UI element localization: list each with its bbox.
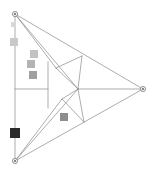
- markers-layer: [10, 22, 68, 138]
- right-vertex-dot: [142, 88, 144, 90]
- bottom-vertex[interactable]: [12, 158, 17, 163]
- marker-gray-3[interactable]: [29, 71, 37, 79]
- top-vertex-dot: [14, 13, 16, 15]
- spoke-center-to-inner-upper: [56, 68, 78, 89]
- chord-bottom-to-inner-lower: [15, 99, 62, 161]
- top-vertex[interactable]: [12, 11, 17, 16]
- right-vertex[interactable]: [140, 86, 145, 91]
- outer-edge-right-bottom: [15, 89, 143, 161]
- rib-upper-node-to-inner-upper: [56, 56, 82, 68]
- edges-layer: [15, 14, 143, 161]
- marker-dark-bottom[interactable]: [10, 128, 20, 138]
- marker-light-spine[interactable]: [10, 38, 18, 46]
- marker-gray-1[interactable]: [30, 50, 38, 58]
- geometric-diagram-canvas: [0, 0, 155, 174]
- marker-gray-mid[interactable]: [60, 113, 68, 121]
- rib-upper-node-to-center: [78, 56, 82, 89]
- marker-gray-2[interactable]: [27, 60, 35, 68]
- chord-top-to-center: [15, 14, 78, 89]
- diagram-svg: [0, 0, 155, 174]
- bottom-vertex-dot: [14, 160, 16, 162]
- chord-bottom-to-center: [15, 89, 78, 161]
- chord-top-to-inner-upper: [15, 14, 56, 68]
- spoke-center-to-inner-lower: [62, 89, 78, 99]
- marker-light-upper[interactable]: [11, 22, 16, 27]
